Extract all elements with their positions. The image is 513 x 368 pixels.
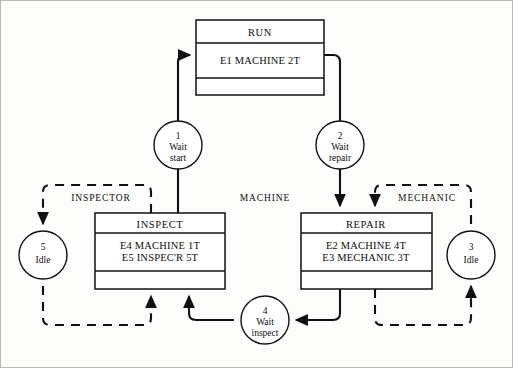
activity-box-inspect[interactable]: INSPECT E4 MACHINE 1T E5 INSPEC'R 5T [95,213,225,289]
activity-box-repair[interactable]: REPAIR E2 MACHINE 4T E3 MECHANIC 3T [301,213,432,289]
queue-1-line-1: Wait [169,142,187,152]
queue-2-line-2: repair [329,153,352,163]
edge-repair-to-q4 [296,289,340,320]
queue-1-number: 1 [176,131,181,141]
queue-circle-wait-repair[interactable]: 2 Wait repair [316,121,364,169]
activity-cycle-diagram: RUN E1 MACHINE 2T INSPECT E4 MACHINE 1T … [0,0,513,368]
queue-circle-mechanic-idle[interactable]: 3 Idle [447,231,495,279]
region-label-inspector: INSPECTOR [71,193,131,203]
edge-run-to-q2 [324,55,340,121]
activity-run-line-1: E1 MACHINE 2T [220,55,301,66]
queue-circle-wait-inspect[interactable]: 4 Wait inspect [241,296,289,344]
queue-3-line-1: Idle [464,255,479,265]
activity-inspect-line-1: E4 MACHINE 1T [120,240,201,251]
activity-repair-line-2: E3 MECHANIC 3T [322,252,410,263]
activity-inspect-title: INSPECT [137,219,184,230]
queue-4-line-2: inspect [252,328,279,338]
activity-repair-line-1: E2 MACHINE 4T [326,240,407,251]
queue-circle-inspector-idle[interactable]: 5 Idle [19,231,67,279]
queue-1-line-2: start [170,153,187,163]
queue-2-line-1: Wait [331,142,349,152]
edge-repair-to-q3 [375,286,471,325]
queue-5-line-1: Idle [36,255,51,265]
activity-inspect-line-2: E5 INSPEC'R 5T [122,252,199,263]
region-label-machine: MACHINE [240,193,291,203]
activity-box-run[interactable]: RUN E1 MACHINE 2T [196,20,324,95]
queue-circle-wait-start[interactable]: 1 Wait start [154,121,202,169]
activity-run-title: RUN [248,27,272,38]
queue-5-number: 5 [41,242,46,252]
activity-repair-title: REPAIR [346,219,386,230]
diagram-canvas: RUN E1 MACHINE 2T INSPECT E4 MACHINE 1T … [0,0,513,368]
queue-3-number: 3 [469,242,474,252]
edge-q5-to-inspect [43,286,151,325]
queue-4-number: 4 [263,306,268,316]
queue-2-number: 2 [338,131,343,141]
edge-q4-to-inspect [189,296,234,320]
edge-q1-to-run [178,55,190,121]
queue-4-line-1: Wait [256,317,274,327]
region-label-mechanic: MECHANIC [398,193,456,203]
